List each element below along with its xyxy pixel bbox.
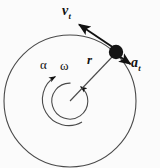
tangential-velocity-subscript: t xyxy=(68,11,70,21)
angular-velocity-label: ω xyxy=(60,59,69,72)
radius-label: r xyxy=(87,53,92,66)
particle-dot xyxy=(109,45,123,59)
angular-acceleration-label: α xyxy=(40,58,47,71)
tangential-acceleration-label: at xyxy=(131,56,141,72)
diagram-canvas xyxy=(0,0,160,168)
tangential-acceleration-symbol: a xyxy=(131,55,138,70)
tangential-velocity-label: vt xyxy=(62,4,71,20)
tangential-acceleration-subscript: t xyxy=(138,63,140,73)
circular-motion-figure: vt at r α ω xyxy=(0,0,160,168)
